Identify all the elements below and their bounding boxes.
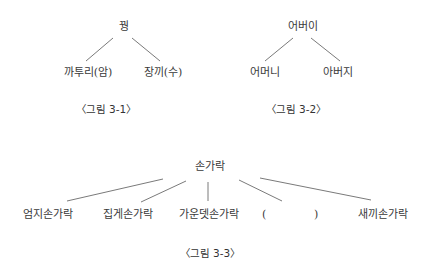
caption-figure-3-2: 〈그림 3-2〉 — [266, 103, 327, 116]
node-child-index-finger: 집게손가락 — [103, 208, 153, 221]
connector-lines — [0, 0, 421, 273]
caption-figure-3-1: 〈그림 3-1〉 — [76, 103, 137, 116]
blank-open-paren: ( — [262, 208, 266, 221]
node-child-male-pheasant: 장끼(수) — [144, 66, 183, 79]
edge-pheasant-male — [132, 38, 160, 61]
node-child-female-pheasant: 까투리(암) — [64, 66, 113, 79]
edge-finger-index — [141, 181, 186, 202]
edge-parents-mother — [265, 38, 293, 61]
edge-finger-thumb — [67, 179, 163, 201]
node-child-thumb: 엄지손가락 — [23, 208, 73, 221]
caption-figure-3-3: 〈그림 3-3〉 — [180, 247, 241, 260]
edge-pheasant-female — [86, 38, 113, 61]
edge-finger-pinky — [260, 178, 371, 200]
node-child-middle-finger: 가운뎃손가락 — [179, 208, 239, 221]
node-child-father: 아버지 — [323, 66, 353, 79]
edge-finger-blank — [239, 180, 282, 201]
blank-close-paren: ) — [314, 208, 318, 221]
edge-parents-father — [311, 38, 340, 61]
node-root-pheasant: 꿩 — [119, 20, 129, 33]
node-child-mother: 어머니 — [250, 66, 280, 79]
node-root-finger: 손가락 — [195, 160, 225, 173]
node-child-pinky: 새끼손가락 — [358, 208, 408, 221]
node-root-parents: 어버이 — [288, 20, 318, 33]
